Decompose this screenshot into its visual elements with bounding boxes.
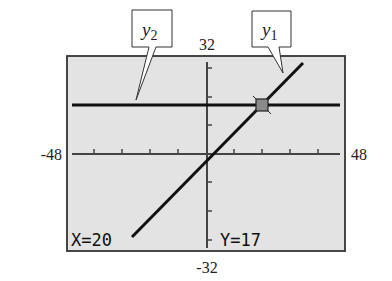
xmin-label: -48 [41,146,62,163]
intersection-cursor [256,99,268,111]
ymax-label: 32 [199,36,215,53]
xmax-label: 48 [351,146,367,163]
trace-y-readout: Y=17 [220,230,261,250]
ymin-label: -32 [196,259,217,276]
trace-x-readout: X=20 [71,230,112,250]
graph-figure: y2 y1 32 -32 -48 48 X=20 Y=17 [0,0,392,281]
